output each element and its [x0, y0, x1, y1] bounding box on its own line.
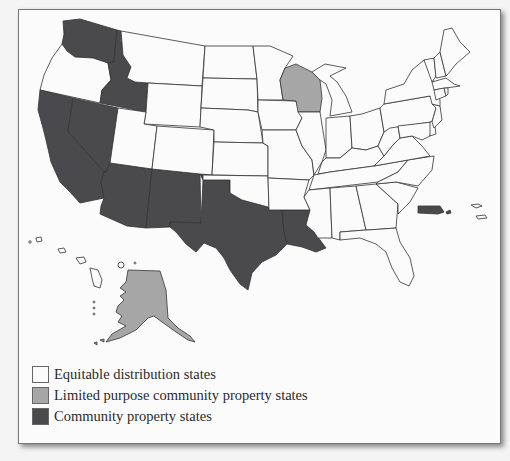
island-circle-1 [118, 262, 124, 268]
state-montana [121, 31, 205, 86]
state-northdakota [203, 46, 257, 79]
legend-item-limited: Limited purpose community property state… [32, 385, 308, 406]
state-kansas [212, 142, 268, 176]
island-circle-5 [93, 307, 95, 309]
state-wyoming [144, 83, 202, 127]
legend-label-equitable: Equitable distribution states [54, 366, 216, 383]
legend-item-equitable: Equitable distribution states [32, 364, 308, 385]
alaska-island-1 [100, 339, 104, 342]
state-newmexico [146, 169, 201, 228]
island-circle-6 [93, 313, 95, 315]
legend-swatch-equitable [32, 366, 49, 383]
state-maine [440, 28, 470, 76]
island-circle-4 [93, 301, 95, 303]
state-colorado [152, 126, 214, 175]
legend-item-community: Community property states [32, 406, 308, 427]
legend-swatch-limited [32, 387, 49, 404]
legend-label-community: Community property states [54, 408, 212, 425]
state-hawaii-oahu [58, 248, 66, 253]
alaska-island-2 [94, 342, 97, 345]
state-hawaii-big-island [90, 268, 102, 288]
territory-virgin-islands-1 [471, 204, 482, 208]
legend: Equitable distribution states Limited pu… [32, 364, 308, 427]
legend-swatch-community [32, 408, 49, 425]
state-alaska [106, 270, 195, 342]
territory-puertorico-islet [446, 210, 451, 214]
territory-puertorico [418, 206, 444, 214]
territory-virgin-islands-2 [476, 215, 487, 219]
state-iowa [258, 100, 302, 130]
state-arkansas [268, 178, 310, 210]
state-arizona [100, 163, 152, 228]
island-circle-3 [134, 262, 136, 264]
state-hawaii-kauai [36, 237, 42, 242]
state-hawaii-maui [76, 257, 86, 264]
state-florida [340, 228, 414, 286]
legend-label-limited: Limited purpose community property state… [54, 387, 308, 404]
island-circle-2 [29, 241, 31, 243]
state-southdakota [201, 78, 258, 112]
